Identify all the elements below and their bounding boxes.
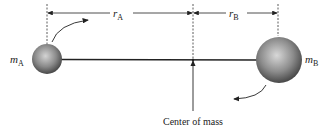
- body-a-sphere: [32, 44, 62, 74]
- rotation-arrow-a-icon: [52, 20, 88, 42]
- r-a-subscript: A: [117, 13, 123, 22]
- center-of-mass-label: Center of mass: [163, 116, 223, 127]
- two-body-diagram: rA rB mA mB Center of mass: [0, 0, 335, 131]
- mass-b-label: m: [305, 53, 313, 65]
- mass-b-text: mB: [305, 53, 318, 68]
- dimension-r-b: rB: [194, 7, 277, 22]
- svg-text:rA: rA: [113, 7, 123, 22]
- mass-a-label: m: [10, 53, 18, 65]
- mass-a-subscript: A: [18, 59, 24, 68]
- connecting-rod: [60, 60, 258, 61]
- mass-b-subscript: B: [313, 59, 318, 68]
- mass-a-text: mA: [10, 53, 24, 68]
- svg-text:rB: rB: [229, 7, 239, 22]
- rotation-arrow-b-icon: [234, 85, 266, 99]
- r-b-subscript: B: [233, 13, 238, 22]
- dimension-r-a: rA: [48, 7, 192, 22]
- center-of-mass-point: [192, 59, 194, 61]
- body-b-sphere: [256, 37, 302, 83]
